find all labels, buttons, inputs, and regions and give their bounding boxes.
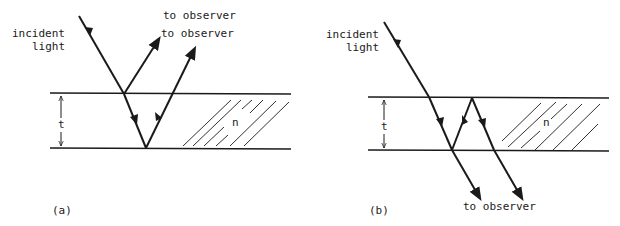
incident-light-label-line1: incident [12,27,65,40]
incident-ray [384,22,429,97]
incident-light-label-line1: incident [326,28,379,41]
film-bottom-surface [368,150,609,151]
incident-light-label-line2: light [32,40,65,53]
film-top-surface [50,93,291,94]
refractive-index-label: n [543,116,550,129]
observer-label-1: to observer [163,9,236,22]
panel-a-caption: (a) [52,204,72,217]
refracted-arrowhead-icon [436,117,444,127]
film-top-surface [368,97,609,98]
refracted-arrowhead-icon [130,114,138,125]
observer-label: to observer [463,200,536,213]
thickness-label: t [381,120,388,133]
observer-label-2: to observer [161,27,234,40]
thin-film-diagram: t n incident light to observer to observ… [0,0,620,226]
incident-light-label-line2: light [346,41,379,54]
reflected-ray-top [124,42,157,94]
panel-a: t n incident light to observer to observ… [12,9,291,217]
internal-down-arrowhead-icon [478,118,486,128]
reflected-ray-bottom [146,52,193,148]
transmitted-ray-2 [494,150,520,195]
panel-b: t n incident light to observer (b) [326,22,609,217]
thickness-label: t [58,118,65,131]
panel-b-caption: (b) [369,204,389,217]
transmitted-ray-1 [452,150,478,195]
refractive-medium-hatching [502,102,600,150]
refractive-index-label: n [232,116,239,129]
film-bottom-surface [50,148,291,149]
